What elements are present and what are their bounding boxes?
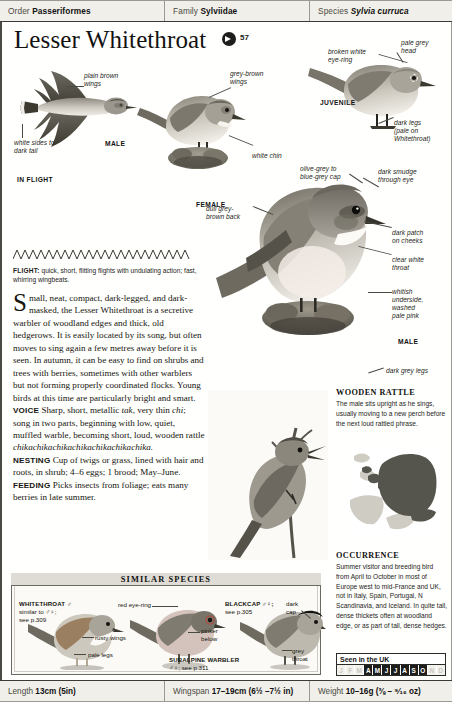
taxonomy-family: Family Sylviidae [165,1,310,21]
wooden-rattle-panel: WOODEN RATTLE The male sits upright as h… [336,388,448,428]
page-title: Lesser Whitethroat [14,26,206,54]
label-rusty-wings: rusty wings [95,634,126,642]
annotation-dark-grey-legs: dark grey legs [386,367,446,375]
leader-line [152,606,178,607]
wingspan-label: Wingspan [173,687,209,696]
month-cell-feb: F [346,665,355,675]
seen-in-uk-heading: Seen in the UK [337,654,445,665]
annotation-plain-brown-wings: plain brown wings [84,72,124,88]
caption-juvenile: JUVENILE [320,99,356,106]
annotation-pale-grey-head: pale grey head [401,39,445,55]
seen-in-uk-chart: Seen in the UK J F M A M J J A S O N D [336,653,446,676]
field-guide-page: Order Passeriformes Family Sylviidae Spe… [0,0,452,702]
photo-singing-male [208,390,328,560]
similar-species-label-blackcap: BLACKCAP ♂♀;see p.305 [225,600,277,616]
taxonomy-bar: Order Passeriformes Family Sylviidae Spe… [0,0,452,22]
month-cell-jul: J [391,665,400,675]
month-row: J F M A M J J A S O N D [337,665,445,675]
flight-description: FLIGHT: quick, short, flitting flights w… [13,266,198,285]
family-label: Family [173,6,198,16]
annotation-white-sides-to-dark-tail: white sides to dark tail [14,139,59,155]
order-label: Order [8,6,30,16]
blackcap-name: BLACKCAP ♂♀; [225,600,274,607]
measurement-length: Length 13cm (5in) [0,681,165,701]
caption-in-flight: IN FLIGHT [17,176,53,183]
voice-call-tak: tak [122,405,133,415]
month-cell-nov: N [428,665,437,675]
voice-b: , very thin [133,405,172,415]
length-label: Length [8,687,33,696]
annotation-dark-smudge-through-eye: dark smudge through eye [378,168,438,184]
length-value: 13cm (5in) [35,687,76,696]
annotation-broken-white-eye-ring: broken white eye-ring [328,48,378,64]
occurrence-text: Summer visitor and breeding bird from Ap… [336,562,448,630]
occurrence-heading: OCCURRENCE [336,551,448,560]
caption-male-perched: MALE [398,338,418,345]
voice-a: Sharp, short, metallic [39,405,121,415]
distribution-map [348,446,440,538]
measurements-bar: Length 13cm (5in) Wingspan 17–19cm (6½ –… [0,680,452,702]
leader-line [66,86,84,87]
species-value: Sylvia curruca [351,6,409,16]
leader-line [188,632,200,633]
subalpine-name: SUBALPINE WARBLER [169,656,239,663]
flight-pattern-graphic [13,247,193,260]
voice-call-chi: chi [172,405,183,415]
feeding-paragraph: FEEDING Picks insects from foliage; eats… [13,479,205,504]
label-pale-legs: pale legs [88,651,113,659]
caption-male-in-flight: MALE [105,140,125,147]
month-cell-dec: D [437,665,445,675]
month-cell-may: M [373,665,382,675]
intro-text: mall, neat, compact, dark-legged, and da… [13,293,204,403]
feeding-heading: FEEDING [13,481,50,490]
family-value: Sylviidae [200,6,237,16]
audio-track-number: 57 [240,33,249,42]
order-value: Passeriformes [32,6,91,16]
label-grey-throat: grey throat [292,647,318,663]
month-cell-jun: J [382,665,391,675]
wingspan-value: 17–19cm (6½ –7½ in) [212,687,293,696]
taxonomy-order: Order Passeriformes [0,1,165,21]
whitethroat-name: WHITETHROAT ♂ [19,600,72,607]
wooden-rattle-text: The male sits upright as he sings, usual… [336,399,448,428]
flight-text: quick, short, flitting flights with undu… [13,267,197,283]
flight-heading: FLIGHT: [13,267,40,274]
annotation-grey-brown-wings: grey-brown wings [230,70,278,86]
drop-cap: S [13,292,29,312]
month-cell-oct: O [419,665,428,675]
label-red-eye-ring: red eye-ring [118,601,151,609]
wooden-rattle-heading: WOODEN RATTLE [336,388,448,397]
voice-rattle: chikachikachikachikachikachikachika. [13,442,153,452]
similar-species-label-whitethroat: WHITETHROAT ♂similar to ♂♀; see p.309 [19,600,77,624]
speaker-icon[interactable] [222,32,236,46]
leader-line [22,124,23,138]
taxonomy-species: Species Sylvia curruca [310,1,452,21]
voice-paragraph: VOICE Sharp, short, metallic tak, very t… [13,404,205,454]
nesting-paragraph: NESTING Cup of twigs or grass, lined wit… [13,454,205,479]
annotation-dull-grey-brown-back: dull grey- brown back [206,205,254,221]
intro-paragraph: Small, neat, compact, dark-legged, and d… [13,292,205,404]
measurement-wingspan: Wingspan 17–19cm (6½ –7½ in) [165,681,310,701]
species-description: Small, neat, compact, dark-legged, and d… [13,292,205,504]
month-cell-sep: S [410,665,419,675]
leader-line [74,654,86,655]
annotation-clear-white-throat: clear white throat [392,256,446,272]
similar-species-heading: SIMILAR SPECIES [11,573,321,586]
month-cell-mar: M [355,665,364,675]
blackcap-ref: see p.305 [225,608,252,615]
annotation-olive-grey-cap: olive-grey to blue-grey cap [300,165,352,181]
voice-heading: VOICE [13,406,39,415]
leader-line [282,650,292,651]
label-pinker-below: pinker below [201,627,231,643]
month-cell-aug: A [401,665,410,675]
annotation-whitish-underside: whitish underside, washed pale pink [392,288,444,320]
month-cell-apr: A [364,665,373,675]
month-cell-jan: J [337,665,346,675]
leader-line [368,292,392,293]
nesting-heading: NESTING [13,456,50,465]
occurrence-panel: OCCURRENCE Summer visitor and breeding b… [336,551,448,630]
subalpine-ref: ♂♀; see p.311 [169,664,208,671]
label-dark-cap: dark cap [286,600,312,616]
species-label: Species [318,6,348,16]
weight-value: 10–16g (⅜ – ⁹⁄₁₆ oz) [346,687,421,696]
